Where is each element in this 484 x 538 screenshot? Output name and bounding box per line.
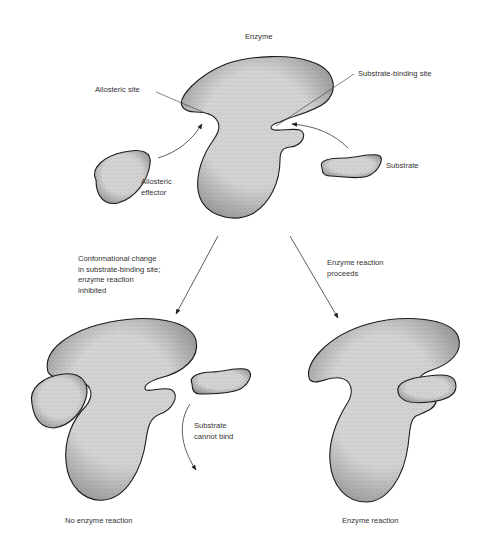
left-branch-caption: Conformational change in substrate-bindi… xyxy=(78,254,160,296)
caption-line: proceeds xyxy=(327,269,384,280)
allosteric-effector-line-1: Allosteric xyxy=(141,177,172,188)
caption-line: in substrate-binding site; xyxy=(78,265,160,276)
substrate-rejected xyxy=(191,369,250,394)
note-line: Substrate xyxy=(194,421,233,432)
diagram-canvas xyxy=(0,0,484,538)
substrate-cannot-bind-note: Substrate cannot bind xyxy=(194,421,233,442)
enzyme-active xyxy=(308,319,459,502)
substrate-binding-site-label: Substrate-binding site xyxy=(358,69,431,80)
enzyme-reaction-label: Enzyme reaction xyxy=(342,516,399,527)
allosteric-effector-line-2: effector xyxy=(141,188,172,199)
effector-binding-arrow xyxy=(158,124,202,158)
no-enzyme-reaction-label: No enzyme reaction xyxy=(65,516,133,527)
caption-line: Conformational change xyxy=(78,254,160,265)
caption-line: Enzyme reaction xyxy=(327,258,384,269)
caption-line: inhibited xyxy=(78,286,160,297)
enzyme-title: Enzyme xyxy=(245,32,272,43)
enzyme-top xyxy=(181,57,333,218)
substrate-top xyxy=(321,155,381,178)
caption-line: enzyme reaction xyxy=(78,275,160,286)
allosteric-effector-label: Allosteric effector xyxy=(141,177,172,198)
substrate-label: Substrate xyxy=(386,161,419,172)
allosteric-site-label: Allosteric site xyxy=(95,85,140,96)
left-branch-arrow xyxy=(176,236,218,314)
right-branch-caption: Enzyme reaction proceeds xyxy=(327,258,384,279)
note-line: cannot bind xyxy=(194,432,233,443)
